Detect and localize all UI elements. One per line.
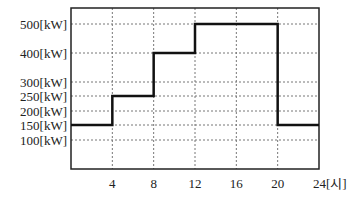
x-axis-labels: 4812162024[시]	[109, 176, 347, 191]
x-tick-label: 4	[109, 176, 116, 191]
y-tick-label: 400[kW]	[20, 46, 67, 61]
x-tick-label: 20	[271, 176, 284, 191]
y-tick-label: 100[kW]	[20, 133, 67, 148]
y-tick-label: 250[kW]	[20, 89, 67, 104]
x-tick-label: 12	[189, 176, 202, 191]
x-tick-label: 16	[230, 176, 244, 191]
load-step-chart: 500[kW]400[kW]300[kW]250[kW]200[kW]150[k…	[0, 0, 356, 197]
y-axis-labels: 500[kW]400[kW]300[kW]250[kW]200[kW]150[k…	[20, 17, 67, 148]
x-tick-label: 8	[150, 176, 157, 191]
x-tick-label: 24[시]	[313, 176, 347, 191]
y-tick-label: 150[kW]	[20, 118, 67, 133]
y-tick-label: 500[kW]	[20, 17, 67, 32]
y-tick-label: 300[kW]	[20, 75, 67, 90]
y-tick-label: 200[kW]	[20, 104, 67, 119]
